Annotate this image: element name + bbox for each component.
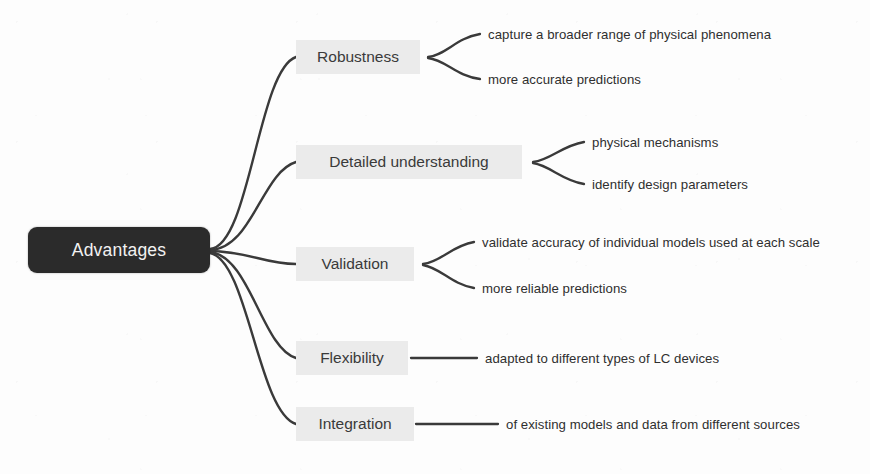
branch-node-integration[interactable]: Integration	[296, 407, 414, 441]
leaf-robustness-1[interactable]: capture a broader range of physical phen…	[488, 27, 771, 42]
branch-label-robustness: Robustness	[317, 48, 399, 66]
leaf-detailed-understanding-2[interactable]: identify design parameters	[592, 177, 748, 192]
branch-label-validation: Validation	[322, 255, 389, 273]
branch-node-flexibility[interactable]: Flexibility	[296, 341, 408, 375]
branch-node-robustness[interactable]: Robustness	[296, 40, 420, 74]
trunk-to-detailed-understanding	[210, 162, 296, 250]
fork-detailed-leaf-2	[533, 163, 584, 184]
fork-detailed-leaf-1	[533, 142, 584, 162]
fork-validation-leaf-2	[423, 265, 474, 288]
branch-label-detailed-understanding: Detailed understanding	[329, 153, 488, 171]
branch-label-integration: Integration	[318, 415, 391, 433]
branch-node-validation[interactable]: Validation	[296, 247, 414, 281]
branch-label-flexibility: Flexibility	[320, 349, 384, 367]
fork-robustness-leaf-2	[428, 58, 480, 79]
leaf-robustness-2[interactable]: more accurate predictions	[488, 72, 641, 87]
leaf-validation-1[interactable]: validate accuracy of individual models u…	[482, 235, 820, 250]
trunk-to-flexibility	[210, 252, 296, 358]
root-node-label: Advantages	[72, 240, 166, 261]
trunk-to-validation	[210, 251, 296, 264]
trunk-to-integration	[210, 253, 296, 424]
fork-robustness-leaf-1	[428, 34, 480, 57]
leaf-validation-2[interactable]: more reliable predictions	[482, 281, 627, 296]
branch-node-detailed-understanding[interactable]: Detailed understanding	[296, 145, 522, 179]
fork-validation-leaf-1	[423, 242, 474, 264]
leaf-detailed-understanding-1[interactable]: physical mechanisms	[592, 135, 718, 150]
root-node-advantages[interactable]: Advantages	[28, 227, 210, 273]
trunk-to-robustness	[210, 57, 296, 249]
leaf-integration-1[interactable]: of existing models and data from differe…	[506, 417, 800, 432]
leaf-flexibility-1[interactable]: adapted to different types of LC devices	[485, 351, 719, 366]
mindmap-canvas: Advantages Robustness Detailed understan…	[0, 0, 870, 474]
